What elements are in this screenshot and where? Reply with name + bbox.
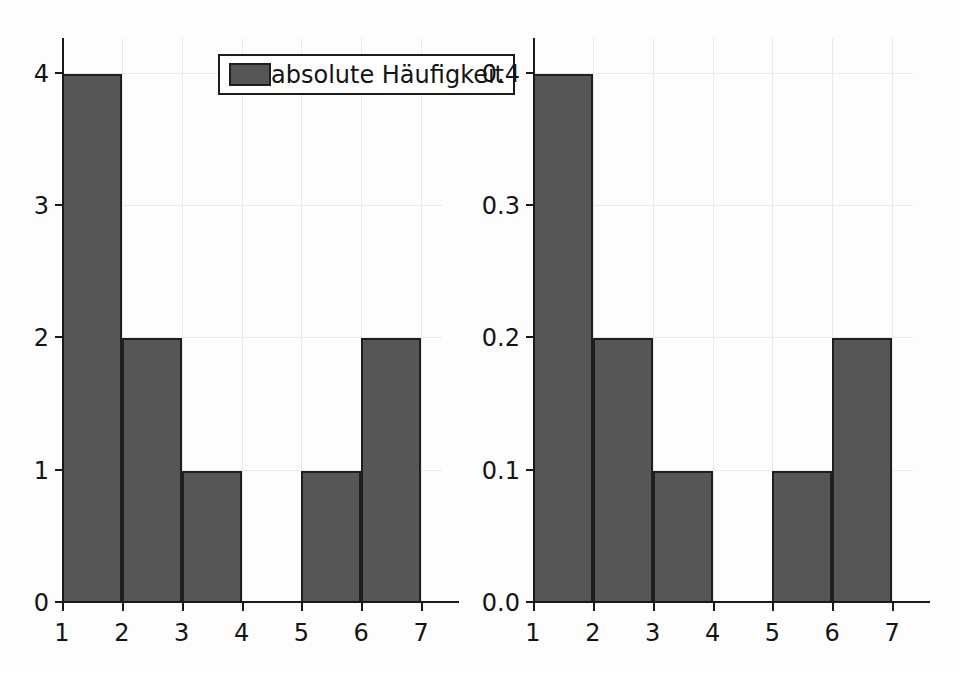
x-axis-tick-label: 2: [114, 621, 129, 645]
x-axis-tick: [62, 603, 64, 611]
x-axis-tick-label: 5: [765, 621, 780, 645]
x-axis-tick-label: 2: [585, 621, 600, 645]
x-axis-tick-label: 4: [234, 621, 249, 645]
legend-absolute: absolute Häufigkeit: [218, 54, 515, 95]
y-axis-tick: [55, 336, 62, 338]
y-axis-tick: [526, 336, 533, 338]
y-axis-tick-label: 0: [34, 591, 49, 615]
y-axis-tick: [55, 601, 62, 603]
x-axis-tick-label: 1: [525, 621, 540, 645]
y-axis-tick: [55, 469, 62, 471]
y-axis-tick: [526, 72, 533, 74]
histogram-bar: [653, 471, 713, 603]
legend-swatch-icon: [229, 63, 271, 86]
plot-inner-absolute: [62, 38, 442, 603]
histogram-bar: [301, 471, 361, 603]
x-axis-tick: [713, 603, 715, 611]
y-axis-tick-label: 3: [34, 194, 49, 218]
histogram-bar: [593, 338, 653, 603]
histogram-bar: [772, 471, 832, 603]
plot-inner-normalized: [533, 38, 913, 603]
x-axis-tick: [533, 603, 535, 611]
y-axis-tick-label: 0.4: [482, 62, 520, 86]
x-axis-tick: [832, 603, 834, 611]
y-axis-tick-label: 0.2: [482, 326, 520, 350]
y-axis-tick-label: 4: [34, 62, 49, 86]
chart-panel-normalized: 0.00.10.20.30.41234567 Normalisiert: [481, 0, 961, 673]
x-axis-tick: [182, 603, 184, 611]
x-axis-tick: [593, 603, 595, 611]
gridline-vertical: [892, 38, 893, 603]
x-axis-tick-label: 4: [705, 621, 720, 645]
legend-label-absolute: absolute Häufigkeit: [271, 63, 504, 87]
y-axis-spine: [533, 38, 535, 603]
y-axis-tick-label: 0.3: [482, 194, 520, 218]
plot-area-normalized: 0.00.10.20.30.41234567: [533, 38, 913, 603]
x-axis-tick: [772, 603, 774, 611]
x-axis-tick: [653, 603, 655, 611]
plot-area-absolute: 012341234567: [62, 38, 442, 603]
x-axis-tick-label: 5: [294, 621, 309, 645]
y-axis-tick: [526, 601, 533, 603]
histogram-bar: [182, 471, 242, 603]
x-axis-tick-label: 3: [645, 621, 660, 645]
x-axis-tick: [421, 603, 423, 611]
y-axis-tick-label: 0.1: [482, 459, 520, 483]
x-axis-tick-label: 3: [174, 621, 189, 645]
y-axis-tick-label: 2: [34, 326, 49, 350]
histogram-bar: [533, 74, 593, 603]
y-axis-tick-label: 1: [34, 459, 49, 483]
y-axis-tick: [55, 204, 62, 206]
x-axis-tick-label: 7: [884, 621, 899, 645]
x-axis-tick: [242, 603, 244, 611]
chart-panel-absolute: 012341234567 absolute Häufigkeit: [0, 0, 480, 673]
y-axis-tick: [526, 204, 533, 206]
histogram-bar: [361, 338, 421, 603]
y-axis-tick: [55, 72, 62, 74]
x-axis-tick-label: 1: [54, 621, 69, 645]
x-axis-tick-label: 6: [354, 621, 369, 645]
gridline-vertical: [713, 38, 714, 603]
gridline-vertical: [421, 38, 422, 603]
x-axis-tick: [892, 603, 894, 611]
histogram-bar: [122, 338, 182, 603]
x-axis-tick: [122, 603, 124, 611]
x-axis-tick-label: 7: [413, 621, 428, 645]
histogram-bar: [832, 338, 892, 603]
histogram-bar: [62, 74, 122, 603]
x-axis-tick: [301, 603, 303, 611]
y-axis-spine: [62, 38, 64, 603]
y-axis-tick-label: 0.0: [482, 591, 520, 615]
figure-canvas: 012341234567 absolute Häufigkeit 0.00.10…: [0, 0, 961, 673]
x-axis-tick-label: 6: [825, 621, 840, 645]
gridline-vertical: [242, 38, 243, 603]
x-axis-tick: [361, 603, 363, 611]
y-axis-tick: [526, 469, 533, 471]
